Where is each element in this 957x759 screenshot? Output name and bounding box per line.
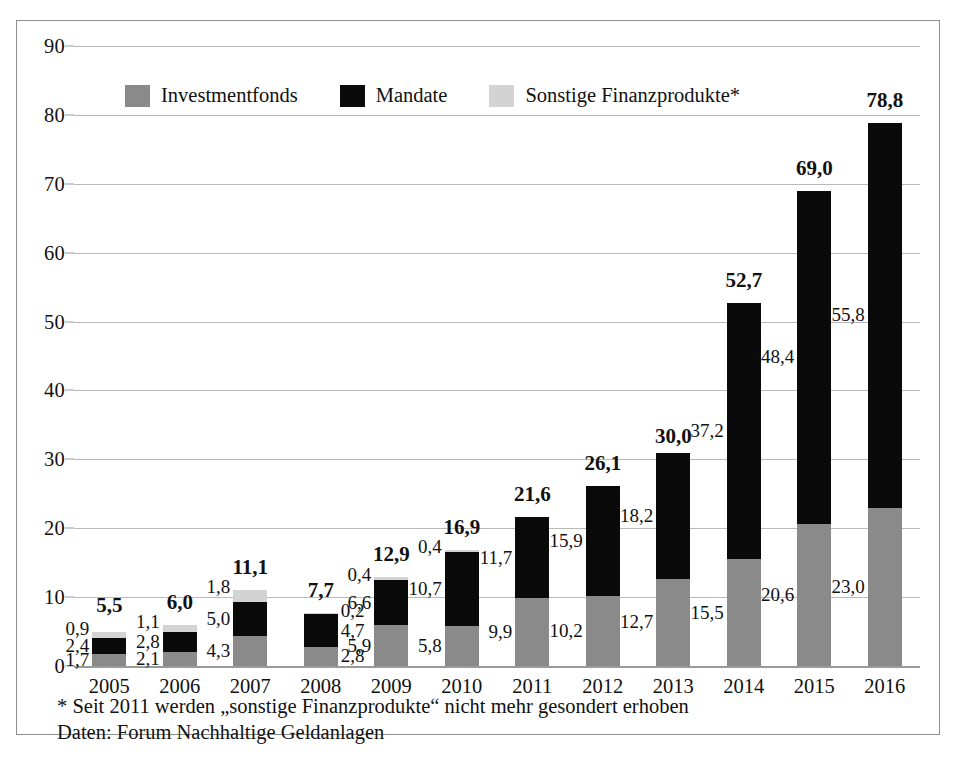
bar-stack[interactable] [374, 577, 408, 666]
y-axis-tickmark [65, 390, 74, 391]
bar-segment-sonstige[interactable] [163, 625, 197, 633]
bar-segment-value-label: 2,8 [136, 631, 160, 653]
y-axis-tickmark [65, 252, 74, 253]
y-axis-tick-label: 80 [44, 103, 65, 126]
bar-segment-mandate[interactable] [304, 614, 338, 646]
bar-stack[interactable] [92, 632, 126, 666]
bar-segment-value-label: 0,4 [348, 564, 372, 586]
bar-column: 12,95,96,60,42009 [357, 46, 425, 666]
bar-segment-mandate[interactable] [868, 123, 902, 507]
bar-segment-mandate[interactable] [797, 191, 831, 524]
bar-stack[interactable] [515, 517, 549, 666]
bar-segment-value-label: 20,6 [761, 584, 794, 606]
bar-segment-fonds[interactable] [304, 647, 338, 666]
bar-segment-fonds[interactable] [515, 598, 549, 666]
bar-segment-value-label: 5,8 [418, 635, 442, 657]
bar-segment-fonds[interactable] [797, 524, 831, 666]
y-axis-tickmark [65, 46, 74, 47]
bar-total-label: 16,9 [443, 515, 480, 540]
bar-segment-fonds[interactable] [656, 579, 690, 666]
x-axis-label-2015: 2015 [794, 675, 835, 698]
bar-segment-value-label: 37,2 [691, 420, 724, 442]
bar-segment-value-label: 55,8 [832, 304, 865, 326]
bar-segment-mandate[interactable] [163, 632, 197, 651]
bar-segment-fonds[interactable] [586, 596, 620, 666]
footnote-line-1: * Seit 2011 werden „sonstige Finanzprodu… [57, 693, 689, 719]
bar-column: 78,823,055,82016 [851, 46, 919, 666]
bar-segment-fonds[interactable] [92, 654, 126, 666]
bar-segment-value-label: 23,0 [832, 576, 865, 598]
bar-segment-value-label: 48,4 [761, 346, 794, 368]
bar-segment-value-label: 18,2 [620, 505, 653, 527]
bar-segment-fonds[interactable] [374, 625, 408, 666]
x-axis-label-2016: 2016 [864, 675, 905, 698]
bar-segment-value-label: 12,7 [620, 611, 653, 633]
bar-stack[interactable] [656, 453, 690, 666]
chart-frame: InvestmentfondsMandateSonstige Finanzpro… [16, 20, 940, 735]
bar-column: 5,51,72,40,92005 [75, 46, 143, 666]
bar-total-label: 6,0 [167, 590, 193, 615]
y-axis-tickmark [65, 597, 74, 598]
bar-total-label: 11,1 [232, 555, 268, 580]
bar-segment-mandate[interactable] [515, 517, 549, 598]
y-axis-tickmark [65, 459, 74, 460]
bar-segment-value-label: 9,9 [489, 621, 513, 643]
bar-stack[interactable] [727, 303, 761, 666]
bar-segment-value-label: 10,7 [409, 578, 442, 600]
bar-segment-value-label: 5,9 [348, 635, 372, 657]
plot-area: 0102030405060708090 5,51,72,40,920056,02… [74, 46, 920, 666]
bar-column: 11,14,35,01,82007 [216, 46, 284, 666]
y-axis-tick-label: 50 [44, 310, 65, 333]
bar-segment-mandate[interactable] [656, 453, 690, 578]
bar-column: 26,110,215,92012 [569, 46, 637, 666]
bar-stack[interactable] [163, 625, 197, 666]
y-axis-tick-label: 10 [44, 586, 65, 609]
bar-segment-value-label: 6,6 [348, 592, 372, 614]
bar-column: 16,95,810,70,42010 [428, 46, 496, 666]
bar-segment-fonds[interactable] [868, 508, 902, 666]
bar-segment-mandate[interactable] [233, 602, 267, 636]
y-axis-tick-label: 20 [44, 517, 65, 540]
bar-column: 7,72,84,70,22008 [287, 46, 355, 666]
bar-segment-mandate[interactable] [445, 552, 479, 626]
bar-segment-mandate[interactable] [374, 580, 408, 625]
bar-series-group: 5,51,72,40,920056,02,12,81,1200611,14,35… [74, 46, 920, 666]
bar-segment-value-label: 0,4 [418, 536, 442, 558]
y-axis-tickmark [65, 321, 74, 322]
bar-stack[interactable] [797, 191, 831, 666]
bar-segment-value-label: 5,0 [207, 608, 231, 630]
bar-segment-fonds[interactable] [445, 626, 479, 666]
bar-stack[interactable] [233, 590, 267, 666]
y-axis-tickmark [65, 183, 74, 184]
bar-stack[interactable] [868, 123, 902, 666]
bar-segment-value-label: 1,8 [207, 576, 231, 598]
bar-segment-value-label: 4,3 [207, 640, 231, 662]
y-axis-tick-label: 0 [55, 655, 65, 678]
bar-segment-fonds[interactable] [727, 559, 761, 666]
bar-stack[interactable] [304, 613, 338, 666]
y-axis-tick-label: 40 [44, 379, 65, 402]
bar-segment-value-label: 1,1 [136, 611, 160, 633]
bar-segment-sonstige[interactable] [233, 590, 267, 602]
bar-total-label: 52,7 [725, 268, 762, 293]
footnote-line-2: Daten: Forum Nachhaltige Geldanlagen [57, 719, 689, 745]
bar-segment-fonds[interactable] [233, 636, 267, 666]
bar-segment-fonds[interactable] [163, 652, 197, 666]
bar-segment-value-label: 11,7 [480, 547, 513, 569]
bar-column: 21,69,911,72011 [498, 46, 566, 666]
bar-total-label: 12,9 [373, 542, 410, 567]
y-axis-tickmark [65, 528, 74, 529]
bar-total-label: 69,0 [796, 156, 833, 181]
footnote-block: * Seit 2011 werden „sonstige Finanzprodu… [57, 693, 689, 745]
y-axis-tick-label: 90 [44, 35, 65, 58]
x-axis-label-2014: 2014 [723, 675, 764, 698]
bar-segment-mandate[interactable] [92, 638, 126, 655]
bar-stack[interactable] [445, 550, 479, 666]
y-axis-tick-label: 70 [44, 172, 65, 195]
bar-segment-mandate[interactable] [586, 486, 620, 596]
bar-total-label: 7,7 [308, 578, 334, 603]
y-axis-tick-label: 60 [44, 241, 65, 264]
bar-segment-mandate[interactable] [727, 303, 761, 559]
bar-segment-value-label: 10,2 [550, 620, 583, 642]
bar-stack[interactable] [586, 486, 620, 666]
